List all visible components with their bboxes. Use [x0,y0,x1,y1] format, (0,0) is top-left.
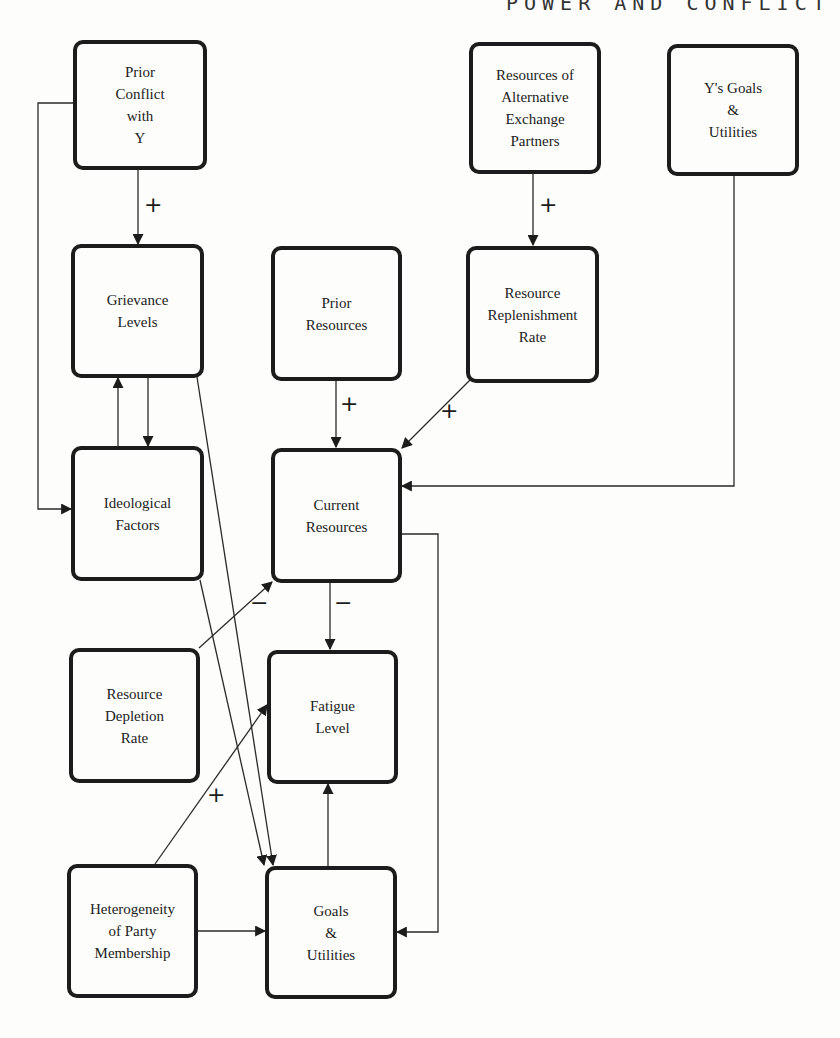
edge-replenish-current [402,380,470,448]
node-grievance: Grievance Levels [71,244,204,378]
edge-conflict-ideological [38,103,73,509]
node-label: Y's Goals & Utilities [704,77,762,143]
node-ideological: Ideological Factors [71,446,204,581]
node-label: Heterogeneity of Party Membership [90,898,175,964]
node-goals: Goals & Utilities [265,866,397,999]
node-prior-resources: Prior Resources [271,246,402,381]
sign-depletion-current: − [250,592,268,614]
node-label: Goals & Utilities [307,900,355,966]
node-current-resources: Current Resources [271,448,402,583]
node-label: Resource Replenishment Rate [488,282,578,348]
sign-alt-replenish: + [539,194,557,216]
node-label: Grievance Levels [107,289,169,333]
node-label: Fatigue Level [310,695,355,739]
node-label: Prior Conflict with Y [115,61,164,149]
node-heterogeneity: Heterogeneity of Party Membership [67,864,198,998]
node-label: Ideological Factors [104,492,171,536]
sign-replenish-current: + [440,400,458,422]
node-y-goals: Y's Goals & Utilities [667,44,799,176]
node-depletion: Resource Depletion Rate [69,648,200,783]
sign-hetero-fatigue: + [207,784,225,806]
node-prior-conflict: Prior Conflict with Y [73,40,207,170]
node-label: Current Resources [306,494,368,538]
edge-current-goals [397,534,438,932]
node-replenishment: Resource Replenishment Rate [466,246,599,383]
node-label: Resources of Alternative Exchange Partne… [496,64,574,152]
sign-conflict-grievance: + [144,194,162,216]
node-label: Resource Depletion Rate [105,683,164,749]
sign-prior-current: + [340,393,358,415]
node-alt-partners: Resources of Alternative Exchange Partne… [469,42,601,174]
sign-current-fatigue: − [334,592,352,614]
node-label: Prior Resources [306,292,368,336]
node-fatigue: Fatigue Level [267,650,398,784]
